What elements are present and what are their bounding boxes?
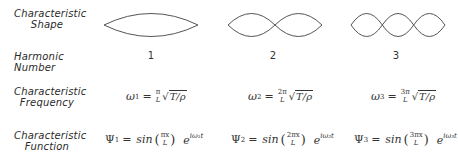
exponent: iω₁t [190,132,204,140]
exponential: eiω₃t [437,132,457,147]
equals-sign: = [387,90,396,103]
harmonic-number-2: 2 [270,50,276,61]
label-line: Shape [14,19,80,30]
square-root: √T/ρ [162,91,186,102]
open-paren: ( [155,132,160,147]
close-paren: ) [170,132,175,147]
exponent: iω₃t [443,132,457,140]
omega-symbol: ω [371,90,380,103]
label-characteristic-shape: Characteristic Shape [14,8,80,30]
psi-symbol: Ψ [231,133,241,146]
subscript: 1 [135,93,139,101]
function-formula-1: Ψ1 = sin (πxL) eiω₁t [105,132,203,147]
psi-symbol: Ψ [105,133,115,146]
denominator: L [403,97,408,104]
radicand: T/ρ [418,90,436,102]
label-characteristic-function: Characteristic Function [14,130,80,152]
close-paren: ) [301,132,306,147]
open-paren: ( [404,132,409,147]
square-root: √T/ρ [412,91,436,102]
open-paren: ( [281,132,286,147]
denominator: L [291,140,296,147]
square-root: √T/ρ [289,91,313,102]
sin-function: sin [136,133,152,146]
equals-sign: = [264,90,273,103]
fraction: 3πL [401,89,410,104]
subscript: 3 [380,93,384,101]
omega-symbol: ω [248,90,257,103]
exponential: eiω₁t [183,132,203,147]
exponential: eiω₂t [314,132,334,147]
denominator: L [156,97,161,104]
label-line: Function [14,141,80,152]
equals-sign: = [142,90,151,103]
fraction: 3πxL [410,132,423,147]
label-characteristic-frequency: Characteristic Frequency [14,86,80,108]
standing-wave-2-icon [226,8,324,42]
subscript: 2 [257,93,261,101]
label-line: Characteristic [14,130,80,141]
denominator: L [414,140,419,147]
frequency-formula-1: ω1 = πL √T/ρ [126,89,187,104]
standing-wave-1-icon [102,8,200,42]
fraction: πL [156,89,161,104]
radicand: T/ρ [169,90,187,102]
denominator: L [280,97,285,104]
psi-symbol: Ψ [354,133,364,146]
equals-sign: = [122,133,131,146]
harmonic-number-1: 1 [148,50,154,61]
harmonic-number-3: 3 [393,50,399,61]
label-line: Characteristic [14,86,80,97]
label-line: Frequency [14,97,80,108]
subscript: 2 [241,136,245,144]
equals-sign: = [371,133,380,146]
close-paren: ) [424,132,429,147]
fraction: 2πL [278,89,287,104]
label-line: Characteristic [14,8,80,19]
frequency-formula-3: ω3 = 3πL √T/ρ [371,89,436,104]
equals-sign: = [248,133,257,146]
sin-function: sin [262,133,278,146]
sin-function: sin [385,133,401,146]
standing-wave-3-icon [349,8,447,42]
omega-symbol: ω [126,90,135,103]
subscript: 3 [364,136,368,144]
exponent: iω₂t [320,132,334,140]
radicand: T/ρ [295,90,313,102]
frequency-formula-2: ω2 = 2πL √T/ρ [248,89,313,104]
function-formula-2: Ψ2 = sin (2πxL) eiω₂t [231,132,334,147]
fraction: πxL [161,132,170,147]
label-line: Harmonic Number [14,51,94,73]
fraction: 2πxL [287,132,300,147]
function-formula-3: Ψ3 = sin (3πxL) eiω₃t [354,132,457,147]
denominator: L [163,140,168,147]
label-harmonic-number: Harmonic Number [14,51,94,73]
subscript: 1 [115,136,119,144]
